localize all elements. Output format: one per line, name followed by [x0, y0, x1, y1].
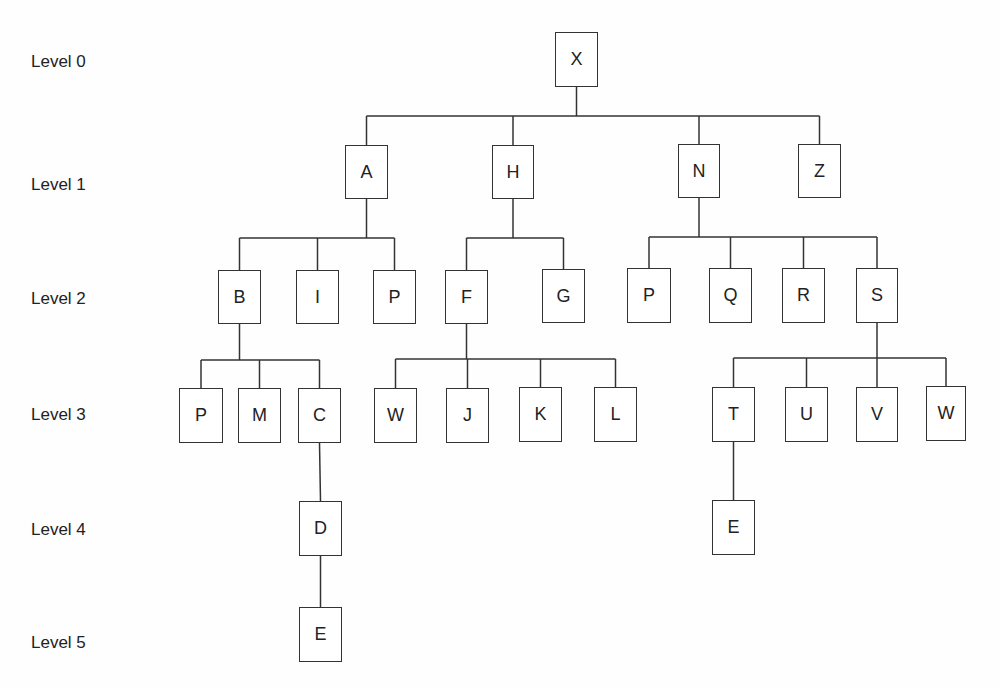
tree-node-x: X: [555, 32, 598, 87]
tree-node-c: C: [298, 388, 341, 443]
tree-node-h: H: [492, 145, 534, 199]
tree-node-r: R: [782, 268, 825, 323]
tree-node-v: V: [856, 387, 898, 442]
tree-node-k: K: [519, 387, 562, 442]
tree-node-g: G: [542, 269, 585, 323]
tree-node-d: D: [299, 501, 342, 556]
tree-node-m: M: [238, 388, 281, 443]
tree-node-p2: P: [627, 268, 671, 323]
tree-node-a: A: [345, 145, 388, 199]
tree-node-z: Z: [798, 144, 841, 198]
tree-node-w2: W: [926, 386, 966, 441]
tree-node-u: U: [785, 387, 828, 442]
tree-connectors: [0, 0, 999, 688]
tree-node-i: I: [296, 270, 339, 324]
tree-node-p1: P: [373, 270, 416, 324]
tree-node-e2: E: [299, 607, 342, 662]
connector-c: [320, 443, 321, 501]
tree-node-s: S: [856, 268, 898, 323]
tree-node-f: F: [445, 270, 488, 324]
tree-node-b: B: [218, 270, 261, 324]
tree-node-n: N: [678, 144, 720, 198]
tree-node-p3: P: [179, 388, 223, 443]
tree-node-e1: E: [712, 500, 755, 555]
tree-node-j: J: [446, 388, 489, 443]
tree-node-l: L: [594, 387, 637, 442]
tree-node-t: T: [712, 387, 755, 442]
tree-node-q: Q: [709, 268, 752, 323]
tree-node-w1: W: [374, 388, 417, 443]
